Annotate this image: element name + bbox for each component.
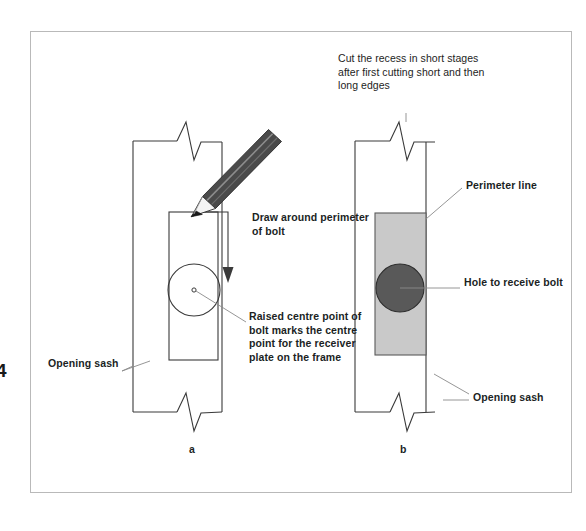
page-number-fragment: 4 bbox=[0, 360, 6, 382]
caption-a: a bbox=[189, 443, 195, 455]
label-cut-recess: Cut the recess in short stages after fir… bbox=[338, 52, 490, 93]
pencil-icon bbox=[191, 130, 282, 217]
down-arrow-head bbox=[223, 267, 234, 283]
caption-b: b bbox=[400, 443, 406, 455]
label-opening-sash-right: Opening sash bbox=[473, 391, 583, 405]
leader-opening-sash-b bbox=[434, 374, 469, 394]
label-opening-sash-left: Opening sash bbox=[48, 357, 158, 371]
leader-perimeter-line bbox=[426, 188, 462, 219]
technical-diagram bbox=[0, 0, 586, 531]
panel-b bbox=[355, 113, 469, 431]
break-line-icon-top-a bbox=[133, 122, 222, 160]
label-hole-to-receive-bolt: Hole to receive bolt bbox=[464, 276, 574, 290]
break-line-icon-bottom-a bbox=[133, 393, 222, 431]
bolt-plate-a bbox=[169, 212, 218, 360]
panel-a bbox=[122, 122, 282, 431]
label-draw-around: Draw around perimeter of bolt bbox=[252, 211, 372, 238]
label-perimeter-line: Perimeter line bbox=[466, 179, 586, 193]
break-line-icon-bottom-b bbox=[355, 393, 435, 431]
break-line-icon-top-b bbox=[355, 122, 435, 160]
figure-page: Cut the recess in short stages after fir… bbox=[0, 0, 586, 531]
label-raised-centre: Raised centre point of bolt marks the ce… bbox=[249, 310, 369, 364]
